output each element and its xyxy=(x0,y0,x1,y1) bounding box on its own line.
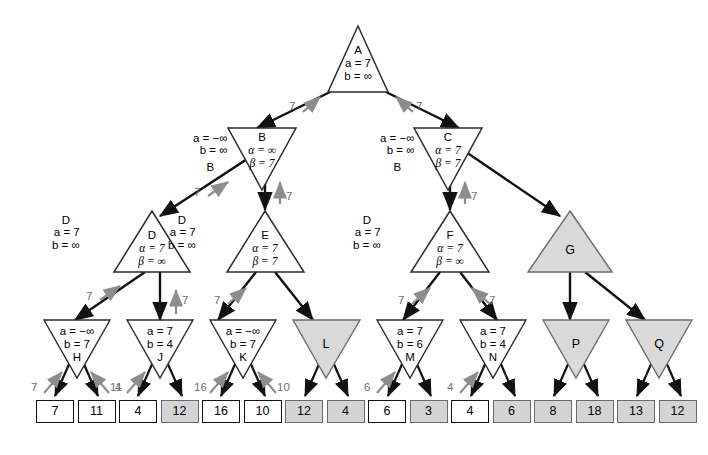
node-D-side-b: b = ∞ xyxy=(52,239,80,251)
backup-label-m-left: 6 xyxy=(364,381,370,393)
node-C-text: C α = 7 β = 7 xyxy=(408,131,488,170)
backup-label-f-to-n: 7 xyxy=(489,294,495,306)
leaf-node: 7 xyxy=(36,400,74,423)
node-J-a: a = 7 xyxy=(120,325,200,338)
node-F-text: F α = 7 β = ∞ xyxy=(410,229,490,268)
leaf-node: 12 xyxy=(285,400,323,423)
node-E-alpha: α = 7 xyxy=(225,242,305,255)
node-A-beta: b = ∞ xyxy=(318,70,398,83)
node-K-text: a = −∞ b = 7 K xyxy=(203,325,283,364)
backup-label-d-to-h: 7 xyxy=(86,290,92,302)
node-F-side-b: b = ∞ xyxy=(353,239,381,251)
node-M-a: a = 7 xyxy=(370,325,450,338)
node-M-name: M xyxy=(370,351,450,364)
node-L-name: L xyxy=(301,337,351,351)
node-E-text: E α = 7 β = 7 xyxy=(225,229,305,268)
node-B-side-tag: B xyxy=(193,161,227,173)
node-E-name: E xyxy=(225,229,305,242)
node-N-a: a = 7 xyxy=(453,325,533,338)
node-M-b: b = 6 xyxy=(370,338,450,351)
node-P-name: P xyxy=(551,337,601,351)
leaf-node: 10 xyxy=(244,400,282,423)
leaf-node: 13 xyxy=(617,400,655,423)
node-H-a: a = −∞ xyxy=(37,325,117,338)
node-N-text: a = 7 b = 4 N xyxy=(453,325,533,364)
backup-label-f-to-m: 7 xyxy=(398,294,404,306)
node-E-side-tag: D xyxy=(168,214,196,226)
backup-label-d-to-j: 7 xyxy=(182,294,188,306)
node-B-name: B xyxy=(222,131,302,144)
node-D-side-a: a = 7 xyxy=(52,226,80,238)
leaf-node: 3 xyxy=(410,400,448,423)
node-K-a: a = −∞ xyxy=(203,325,283,338)
backup-label-a-to-c: 7 xyxy=(416,100,422,112)
node-F-side-a: a = 7 xyxy=(353,226,381,238)
backup-label-h-left: 7 xyxy=(31,381,37,393)
node-C-beta: β = 7 xyxy=(408,157,488,170)
node-D-beta: β = ∞ xyxy=(112,255,192,268)
node-E-side-labels: D a = 7 b = ∞ xyxy=(168,214,196,251)
leaf-node: 12 xyxy=(161,400,199,423)
node-A-text: A a = 7 b = ∞ xyxy=(318,44,398,83)
backup-label-n-left: 4 xyxy=(447,381,453,393)
node-J-b: b = 4 xyxy=(120,338,200,351)
node-D-side-labels: D a = 7 b = ∞ xyxy=(52,214,80,251)
node-C-side-labels: a = −∞ b = ∞ B xyxy=(380,132,414,173)
node-B-side-a: a = −∞ xyxy=(193,132,227,144)
node-H-b: b = 7 xyxy=(37,338,117,351)
backup-label-b-to-e: 7 xyxy=(286,190,292,202)
node-H-text: a = −∞ b = 7 H xyxy=(37,325,117,364)
node-F-side-labels: D a = 7 b = ∞ xyxy=(353,214,381,251)
node-G-text: G xyxy=(545,243,595,257)
node-N-b: b = 4 xyxy=(453,338,533,351)
node-B-side-b: b = ∞ xyxy=(193,144,227,156)
node-C-side-tag: B xyxy=(380,161,414,173)
node-B-beta: β = 7 xyxy=(222,157,302,170)
backup-label-b-to-d: 7 xyxy=(194,186,200,198)
game-tree-diagram: A a = 7 b = ∞ B α = ∞ β = 7 a = −∞ b = ∞… xyxy=(0,0,708,455)
node-K-b: b = 7 xyxy=(203,338,283,351)
node-J-text: a = 7 b = 4 J xyxy=(120,325,200,364)
node-E-side-a: a = 7 xyxy=(168,226,196,238)
backup-label-c-to-f: 7 xyxy=(471,190,477,202)
leaf-node: 18 xyxy=(576,400,614,423)
leaf-node: 4 xyxy=(327,400,365,423)
node-G-name: G xyxy=(545,243,595,257)
node-F-name: F xyxy=(410,229,490,242)
node-B-text: B α = ∞ β = 7 xyxy=(222,131,302,170)
node-Q-name: Q xyxy=(634,337,684,351)
leaf-node: 6 xyxy=(493,400,531,423)
leaf-node: 6 xyxy=(368,400,406,423)
node-C-name: C xyxy=(408,131,488,144)
leaf-node: 4 xyxy=(119,400,157,423)
leaf-node: 4 xyxy=(451,400,489,423)
leaf-node: 16 xyxy=(202,400,240,423)
backup-label-k-left: 16 xyxy=(194,381,207,393)
node-F-side-tag: D xyxy=(353,214,381,226)
node-Q-text: Q xyxy=(634,337,684,351)
backup-label-e-to-k: 7 xyxy=(214,294,220,306)
node-J-name: J xyxy=(120,351,200,364)
node-G-shape xyxy=(528,211,612,272)
node-C-side-a: a = −∞ xyxy=(380,132,414,144)
leaf-node: 12 xyxy=(659,400,697,423)
node-F-alpha: α = 7 xyxy=(410,242,490,255)
node-P-text: P xyxy=(551,337,601,351)
leaf-node: 11 xyxy=(78,400,116,423)
node-C-side-b: b = ∞ xyxy=(380,144,414,156)
node-A-alpha: a = 7 xyxy=(318,57,398,70)
node-B-side-labels: a = −∞ b = ∞ B xyxy=(193,132,227,173)
node-E-beta: β = 7 xyxy=(225,255,305,268)
node-H-name: H xyxy=(37,351,117,364)
node-K-name: K xyxy=(203,351,283,364)
node-F-beta: β = ∞ xyxy=(410,255,490,268)
node-A-name: A xyxy=(318,44,398,57)
leaf-node: 8 xyxy=(534,400,572,423)
node-B-alpha: α = ∞ xyxy=(222,144,302,157)
node-D-side-tag: D xyxy=(52,214,80,226)
node-E-side-b: b = ∞ xyxy=(168,239,196,251)
backup-label-k-right: 10 xyxy=(277,381,290,393)
node-L-text: L xyxy=(301,337,351,351)
node-N-name: N xyxy=(453,351,533,364)
backup-label-j-left: 4 xyxy=(115,381,121,393)
